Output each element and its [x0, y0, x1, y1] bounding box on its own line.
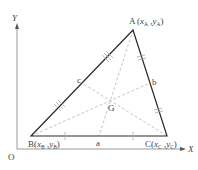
y-axis-label: Y [12, 13, 18, 23]
svg-text:B(xB ,yB): B(xB ,yB) [28, 139, 60, 150]
median-from-B [31, 83, 150, 136]
centroid-G-label: G [108, 103, 115, 113]
midpoint-b-label: b [152, 77, 157, 87]
median-from-A [99, 30, 133, 136]
x-axis-label: X [187, 144, 194, 154]
median-from-C [82, 83, 167, 136]
midpoint-a-label: a [96, 138, 100, 148]
triangle-centroid-diagram: Y X O [0, 0, 198, 170]
svg-text:A(xA ,yA): A(xA ,yA) [129, 16, 163, 27]
vertex-C-label: C(xC ,yC) [145, 139, 177, 150]
triangle-abc [31, 30, 167, 136]
midpoint-c-label: c [77, 75, 81, 85]
vertex-A-label: A(xA ,yA) [129, 16, 163, 27]
y-axis-arrow-icon [15, 23, 19, 29]
origin-label: O [8, 152, 15, 162]
medians [31, 30, 167, 136]
vertex-B-label: B(xB ,yB) [28, 139, 60, 150]
svg-text:C(xC ,yC): C(xC ,yC) [145, 139, 177, 150]
x-axis-arrow-icon [180, 147, 186, 151]
